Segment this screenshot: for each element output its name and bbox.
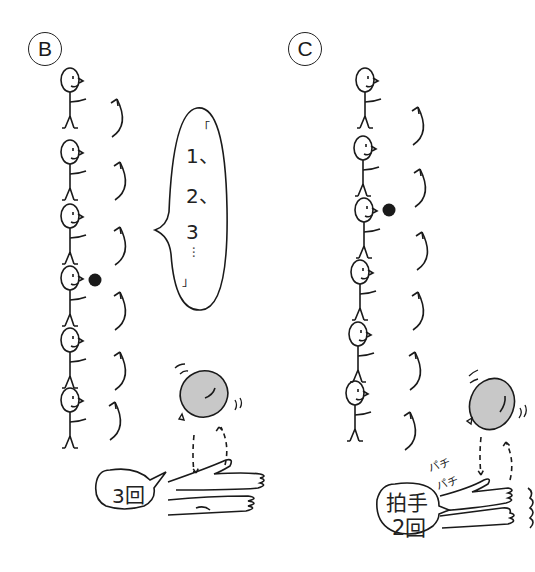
- panel-label-b: B: [28, 32, 62, 66]
- person-figure: [61, 266, 86, 326]
- person-figure: [61, 140, 86, 200]
- clap-label-line2: 2回: [392, 511, 426, 541]
- ball-icon: [383, 204, 396, 217]
- person-figure: [356, 68, 381, 128]
- speech-line: 3: [186, 220, 199, 244]
- ball-icon: [89, 274, 102, 287]
- person-figure: [349, 322, 374, 382]
- panel-c-people-column: [346, 68, 381, 441]
- person-figure: [61, 328, 86, 388]
- panel-b-pass-arrows: [109, 99, 125, 440]
- panel-c-pass-arrows: [404, 107, 427, 450]
- speech-ellipsis: …: [190, 246, 204, 258]
- person-figure: [351, 260, 376, 320]
- panel-b-people-column: [61, 68, 86, 448]
- person-figure: [61, 204, 86, 264]
- person-figure: [355, 198, 380, 258]
- count-label: 3回: [112, 480, 145, 509]
- close-quote: 」: [182, 272, 194, 289]
- person-figure: [61, 68, 86, 128]
- person-figure: [354, 136, 379, 196]
- open-quote: 「: [198, 118, 210, 135]
- panel-label-c: C: [288, 32, 322, 66]
- hands-icon: [168, 460, 264, 515]
- person-figure: [61, 388, 86, 448]
- person-figure: [346, 381, 371, 441]
- speech-line: 2、: [186, 180, 219, 209]
- speech-line: 1、: [186, 140, 219, 169]
